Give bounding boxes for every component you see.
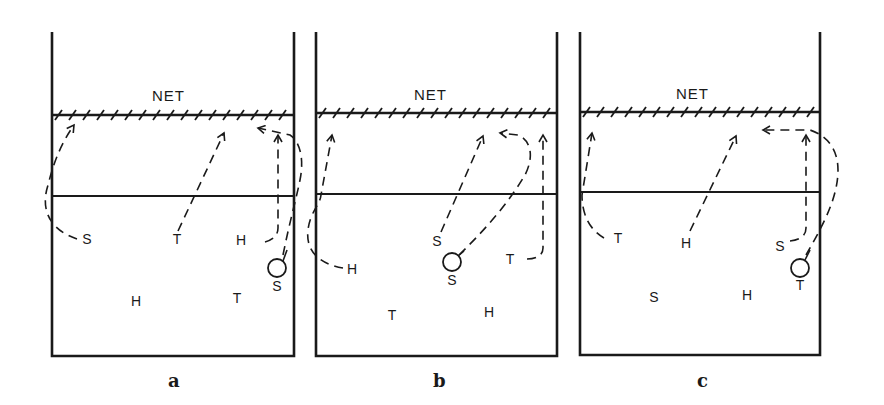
- path-h-to-left-front: [308, 135, 343, 268]
- player-t: T: [388, 307, 397, 323]
- player-s: S: [432, 233, 441, 249]
- player-t: T: [506, 251, 515, 267]
- player-s: S: [82, 231, 91, 247]
- ball-tail: [458, 251, 464, 256]
- ball-icon: [791, 259, 809, 277]
- caption-a: a: [168, 370, 180, 391]
- player-s: S: [447, 272, 456, 288]
- player-h: H: [131, 293, 141, 309]
- player-s: S: [272, 278, 281, 294]
- net-label: NET: [676, 85, 709, 102]
- panel-c: NET: [580, 32, 838, 355]
- player-h: H: [236, 232, 246, 248]
- path-t-to-left-front: [582, 133, 604, 238]
- player-t: T: [796, 277, 805, 293]
- player-h: H: [742, 287, 752, 303]
- path-h-to-right: [265, 135, 278, 242]
- player-h: H: [681, 235, 691, 251]
- panel-b: NET: [308, 32, 557, 356]
- player-h: H: [484, 304, 494, 320]
- path-s-to-middle: [441, 136, 483, 232]
- path-t-to-right-front: [527, 135, 543, 259]
- net-label: NET: [414, 86, 447, 103]
- path-h-to-middle: [690, 136, 736, 231]
- path-s-to-right: [790, 135, 806, 241]
- player-s: S: [649, 289, 658, 305]
- player-t: T: [614, 230, 623, 246]
- path-s-to-left-front: [45, 125, 77, 239]
- volleyball-rotation-diagram: NET NET NET STHSHTHSSTTHTHSTSH a: [0, 0, 884, 405]
- caption-c: c: [697, 370, 708, 391]
- player-s: S: [775, 238, 784, 254]
- court-outline: [52, 32, 294, 356]
- player-t: T: [173, 231, 182, 247]
- court-outline: [580, 32, 820, 355]
- net-label: NET: [152, 87, 185, 104]
- player-labels: STHSHTHSSTTHTHSTSH: [82, 230, 804, 323]
- player-h: H: [347, 261, 357, 277]
- player-t: T: [233, 290, 242, 306]
- path-t-to-middle: [178, 133, 224, 231]
- panel-a: NET: [45, 32, 301, 356]
- caption-b: b: [433, 370, 446, 391]
- ball-icon: [268, 259, 286, 277]
